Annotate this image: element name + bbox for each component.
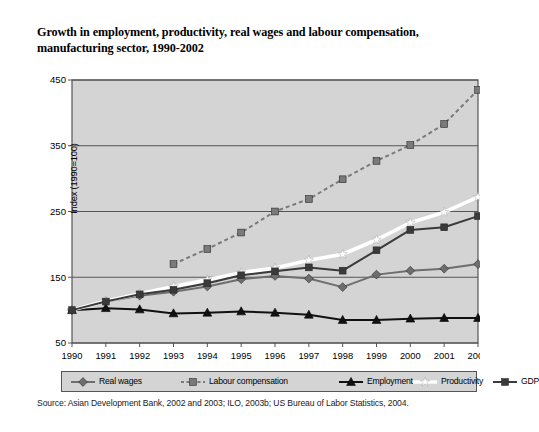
source-note: Source: Asian Development Bank, 2002 and… <box>37 398 409 408</box>
x-tick-label: 1993 <box>163 350 184 361</box>
page-title: Growth in employment, productivity, real… <box>37 25 447 56</box>
y-tick-label: 150 <box>50 272 66 283</box>
x-tick-label: 1994 <box>197 350 218 361</box>
data-point-star <box>420 377 430 386</box>
square-icon <box>180 375 206 389</box>
data-point-square <box>102 298 109 305</box>
data-point-square <box>305 264 312 271</box>
x-tick-label: 2002 <box>468 350 480 361</box>
triangle-icon <box>338 375 364 389</box>
data-point-square <box>339 267 346 274</box>
x-tick-label: 1992 <box>129 350 150 361</box>
x-tick-label: 1990 <box>62 350 83 361</box>
data-point-square <box>272 268 279 275</box>
x-tick-label: 1997 <box>298 350 319 361</box>
y-tick-label: 350 <box>50 140 66 151</box>
data-point-square <box>238 272 245 279</box>
data-point-square <box>441 121 448 128</box>
data-point-square <box>407 142 414 149</box>
y-axis-label: Index (1990=100) <box>68 114 79 244</box>
chart-legend: Real wagesLabour compensationEmploymentP… <box>61 371 477 392</box>
data-point-square <box>190 378 197 385</box>
data-point-square <box>373 247 380 254</box>
data-point-square <box>204 280 211 287</box>
data-point-square <box>339 176 346 183</box>
x-tick-label: 1998 <box>332 350 353 361</box>
x-tick-label: 2001 <box>434 350 455 361</box>
legend-item-labour-compensation: Labour compensation <box>180 372 288 391</box>
line-chart: 5015025035045019901991199219931994199519… <box>34 65 480 362</box>
legend-item-employment: Employment <box>338 372 413 391</box>
y-tick-label: 450 <box>50 74 66 85</box>
legend-label: Productivity <box>441 372 483 391</box>
square-icon <box>492 375 518 389</box>
data-point-square <box>272 208 279 215</box>
legend-label: Employment <box>367 372 413 391</box>
x-tick-label: 1995 <box>231 350 252 361</box>
chart-plot-area: Index (1990=100) 50150250350450199019911… <box>34 65 480 362</box>
legend-label: Real wages <box>99 372 142 391</box>
data-point-square <box>69 307 76 314</box>
legend-label: Labour compensation <box>209 372 288 391</box>
data-point-square <box>475 213 480 220</box>
data-point-square <box>204 246 211 253</box>
y-tick-label: 250 <box>50 206 66 217</box>
data-point-square <box>502 378 509 385</box>
x-tick-label: 1996 <box>265 350 286 361</box>
data-point-diamond <box>79 377 88 386</box>
figure-card: Growth in employment, productivity, real… <box>14 8 492 422</box>
y-tick-label: 50 <box>55 337 66 348</box>
data-point-square <box>238 229 245 236</box>
diamond-icon <box>70 375 96 389</box>
data-point-square <box>441 224 448 231</box>
data-point-square <box>475 86 480 93</box>
x-tick-label: 1999 <box>366 350 387 361</box>
x-tick-label: 1991 <box>95 350 116 361</box>
data-point-square <box>170 261 177 268</box>
legend-item-productivity: Productivity <box>412 372 483 391</box>
data-point-square <box>407 227 414 234</box>
data-point-square <box>170 286 177 293</box>
data-point-square <box>305 196 312 203</box>
star-icon <box>412 375 438 389</box>
legend-item-real-wages: Real wages <box>70 372 142 391</box>
legend-item-gdp: GDP <box>492 372 539 391</box>
data-point-square <box>373 157 380 164</box>
legend-label: GDP <box>521 372 539 391</box>
data-point-square <box>136 291 143 298</box>
x-tick-label: 2000 <box>400 350 421 361</box>
